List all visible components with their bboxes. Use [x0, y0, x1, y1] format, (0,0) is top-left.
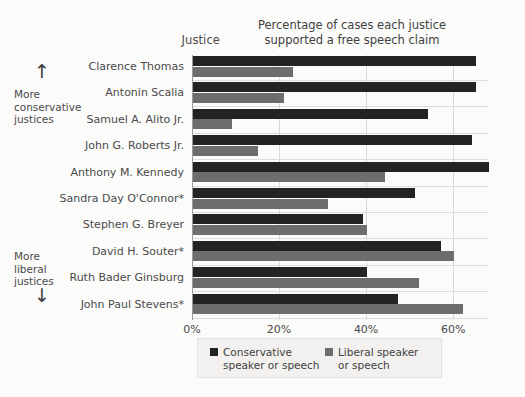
category-label: David H. Souter* [14, 245, 184, 258]
category-label: Clarence Thomas [14, 60, 184, 73]
bar-conservative [193, 241, 441, 251]
bar-conservative [193, 294, 398, 304]
category-label: Samuel A. Alito Jr. [14, 113, 184, 126]
x-tick-label: 60% [423, 323, 483, 336]
legend-label-liberal-line-1: Liberal speaker [338, 346, 418, 359]
bar-liberal [193, 278, 419, 288]
y-axis-line [192, 55, 193, 320]
row-separator [192, 291, 488, 292]
legend-label-liberal-line-2: or speech [338, 359, 418, 372]
row-separator [192, 265, 488, 266]
row-separator [192, 159, 488, 160]
gridline-60 [453, 55, 454, 320]
bar-liberal [193, 119, 232, 129]
chart-page: Justice Percentage of cases each justice… [0, 0, 525, 397]
legend-item-liberal: Liberal speaker or speech [325, 346, 418, 371]
bar-conservative [193, 188, 415, 198]
row-separator [192, 238, 488, 239]
legend-label-conservative-line-1: Conservative [223, 346, 319, 359]
bar-conservative [193, 267, 367, 277]
bar-liberal [193, 93, 284, 103]
row-separator [192, 80, 488, 81]
bar-conservative [193, 56, 476, 66]
bar-liberal [193, 67, 293, 77]
row-separator [192, 212, 488, 213]
bar-conservative [193, 162, 489, 172]
bar-liberal [193, 225, 367, 235]
row-separator [192, 186, 488, 187]
row-separator [192, 133, 488, 134]
bar-conservative [193, 82, 476, 92]
legend-item-conservative: Conservative speaker or speech [210, 346, 319, 371]
bar-liberal [193, 304, 463, 314]
bar-conservative [193, 109, 428, 119]
category-label: Antonin Scalia [14, 86, 184, 99]
plot-area [192, 55, 488, 320]
chart-title-line-1: Percentage of cases each justice [232, 18, 472, 33]
legend-swatch-conservative-icon [210, 348, 218, 356]
bar-conservative [193, 214, 363, 224]
legend-label-conservative-line-2: speaker or speech [223, 359, 319, 372]
x-tick-label: 20% [249, 323, 309, 336]
category-label: Anthony M. Kennedy [14, 166, 184, 179]
row-separator [192, 106, 488, 107]
chart-title: Percentage of cases each justice support… [232, 18, 472, 47]
legend-swatch-liberal-icon [325, 348, 333, 356]
bar-liberal [193, 199, 328, 209]
category-label: John G. Roberts Jr. [14, 139, 184, 152]
x-tick-label: 40% [336, 323, 396, 336]
justice-column-header: Justice [120, 33, 220, 47]
category-label: Sandra Day O'Connor* [14, 192, 184, 205]
category-label: John Paul Stevens* [14, 298, 184, 311]
category-label: Ruth Bader Ginsburg [14, 271, 184, 284]
bar-conservative [193, 135, 472, 145]
chart-title-line-2: supported a free speech claim [232, 33, 472, 48]
annotation-conservative-line-2: conservative [14, 101, 81, 114]
row-separator [192, 318, 488, 319]
bar-liberal [193, 251, 454, 261]
bar-liberal [193, 146, 258, 156]
category-label: Stephen G. Breyer [14, 218, 184, 231]
chart-legend: Conservative speaker or speech Liberal s… [197, 338, 442, 378]
bar-liberal [193, 172, 385, 182]
x-tick-label: 0% [162, 323, 222, 336]
